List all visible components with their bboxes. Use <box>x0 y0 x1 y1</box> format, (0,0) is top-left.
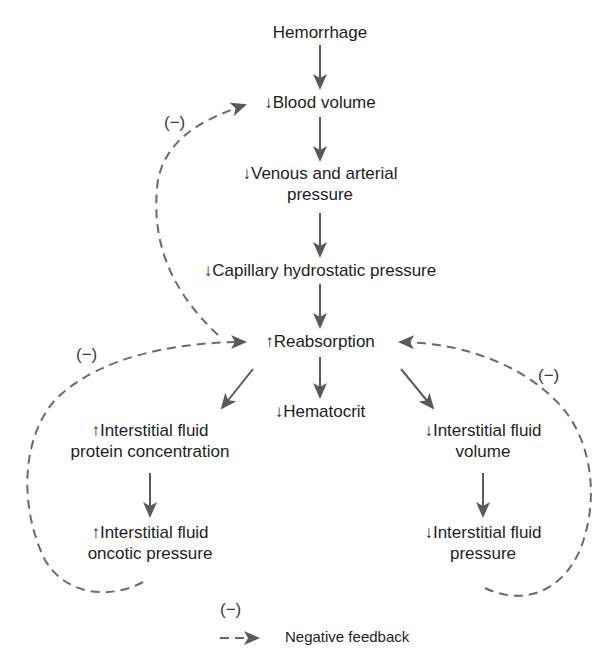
node-hematocrit-text: ↓Hematocrit <box>275 402 366 421</box>
node-reabsorption: ↑Reabsorption <box>240 331 400 352</box>
legend-label: Negative feedback <box>285 628 409 645</box>
node-if-pressure-line2: pressure <box>393 543 573 564</box>
feedback-sign-left: (−) <box>76 345 97 365</box>
feedback-sign-right: (−) <box>538 366 559 386</box>
feedback-reabsorption-to-blood-volume <box>156 105 245 335</box>
node-blood-volume-text: ↓Blood volume <box>264 93 376 112</box>
node-if-protein-line1: ↑Interstitial fluid <box>50 420 250 441</box>
node-capillary-hydrostatic-pressure: ↓Capillary hydrostatic pressure <box>170 260 470 281</box>
node-venous-line2: pressure <box>200 184 440 205</box>
node-hemorrhage-text: Hemorrhage <box>273 23 368 42</box>
node-if-volume: ↓Interstitial fluid volume <box>393 420 573 462</box>
node-if-pressure-line1: ↓Interstitial fluid <box>393 522 573 543</box>
node-if-protein-line2: protein concentration <box>50 441 250 462</box>
node-if-volume-line2: volume <box>393 441 573 462</box>
arrow-reabsorption-to-if-protein <box>222 369 253 408</box>
node-venous-line1: ↓Venous and arterial <box>200 163 440 184</box>
node-if-oncotic-line1: ↑Interstitial fluid <box>50 522 250 543</box>
node-hematocrit: ↓Hematocrit <box>250 401 390 422</box>
node-if-oncotic-line2: oncotic pressure <box>50 543 250 564</box>
node-venous-arterial-pressure: ↓Venous and arterial pressure <box>200 163 440 205</box>
node-hemorrhage: Hemorrhage <box>220 22 420 43</box>
feedback-sign-top-left: (−) <box>164 113 185 133</box>
node-capillary-text: ↓Capillary hydrostatic pressure <box>204 261 436 280</box>
node-if-oncotic-pressure: ↑Interstitial fluid oncotic pressure <box>50 522 250 564</box>
legend-sign: (−) <box>220 600 241 620</box>
arrow-reabsorption-to-if-volume <box>401 369 433 408</box>
node-if-volume-line1: ↓Interstitial fluid <box>393 420 573 441</box>
node-blood-volume: ↓Blood volume <box>220 92 420 113</box>
node-if-pressure: ↓Interstitial fluid pressure <box>393 522 573 564</box>
node-reabsorption-text: ↑Reabsorption <box>265 332 375 351</box>
node-if-protein-concentration: ↑Interstitial fluid protein concentratio… <box>50 420 250 462</box>
